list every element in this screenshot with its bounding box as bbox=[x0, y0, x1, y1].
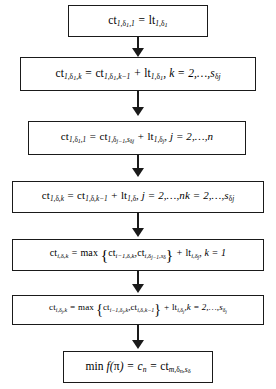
arrow-head-icon bbox=[132, 48, 144, 57]
flowchart-arrow-6 bbox=[131, 325, 145, 349]
arrow-head-icon bbox=[132, 168, 144, 177]
arrow-shaft bbox=[137, 213, 139, 229]
flowchart-arrow-1 bbox=[131, 37, 145, 57]
flowchart-arrow-2 bbox=[131, 91, 145, 116]
flowchart-node-2: ct1,δ1,k = ct1,δ1,k−1 + lt1,δ1, k = 2,…,… bbox=[20, 57, 256, 91]
arrow-shaft bbox=[137, 91, 139, 108]
formula-node-2: ct1,δ1,k = ct1,δ1,k−1 + lt1,δ1, k = 2,…,… bbox=[55, 67, 220, 82]
formula-node-4: ct1,δ,k = ct1,δ,k−1 + lt1,δ, j = 2,…,nk … bbox=[42, 190, 234, 204]
flowchart-node-3: ct1,δ1,1 = ct1,δj−1,sδj + lt1,δj, j = 2,… bbox=[28, 121, 246, 155]
arrow-shaft bbox=[137, 155, 139, 169]
flowchart-diagram: ct1,δ1,1 = lt1,δ1 ct1,δ1,k = ct1,δ1,k−1 … bbox=[0, 0, 276, 389]
flowchart-arrow-4 bbox=[131, 213, 145, 237]
formula-node-1: ct1,δ1,1 = lt1,δ1 bbox=[108, 14, 167, 29]
arrow-head-icon bbox=[132, 340, 144, 349]
arrow-head-icon bbox=[132, 228, 144, 237]
flowchart-arrow-5 bbox=[131, 271, 145, 293]
arrow-shaft bbox=[137, 271, 139, 285]
flowchart-node-7: min f(π) = cn = ctm,δn,sδ bbox=[63, 351, 213, 383]
arrow-head-icon bbox=[132, 107, 144, 116]
flowchart-node-4: ct1,δ,k = ct1,δ,k−1 + lt1,δ, j = 2,…,nk … bbox=[12, 181, 264, 213]
formula-node-6: cti,δj,k = max {cti−1,δj,k,cti,δ,k−1} + … bbox=[49, 303, 227, 318]
formula-node-5: cti,δ,k = max {cti−1,δ,k,cti,δj−1,sδ} + … bbox=[50, 247, 226, 263]
formula-node-3: ct1,δ1,1 = ct1,δj−1,sδj + lt1,δj, j = 2,… bbox=[61, 131, 213, 145]
flowchart-node-5: cti,δ,k = max {cti−1,δ,k,cti,δj−1,sδ} + … bbox=[12, 239, 264, 271]
formula-node-7: min f(π) = cn = ctm,δn,sδ bbox=[85, 360, 190, 375]
arrow-head-icon bbox=[132, 284, 144, 293]
flowchart-node-1: ct1,δ1,1 = lt1,δ1 bbox=[68, 5, 208, 37]
flowchart-arrow-3 bbox=[131, 155, 145, 177]
flowchart-node-6: cti,δj,k = max {cti−1,δj,k,cti,δ,k−1} + … bbox=[12, 295, 264, 325]
arrow-shaft bbox=[137, 325, 139, 341]
